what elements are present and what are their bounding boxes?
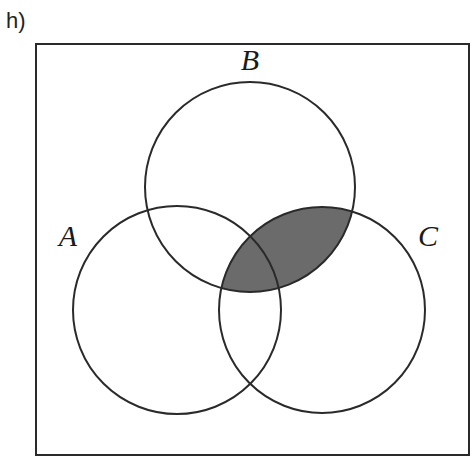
set-c-label: C [418, 219, 439, 252]
venn-diagram: A B C [0, 0, 472, 467]
shaded-region-b-intersect-c [145, 82, 355, 292]
set-a-label: A [57, 219, 78, 252]
set-b-label: B [241, 43, 259, 76]
